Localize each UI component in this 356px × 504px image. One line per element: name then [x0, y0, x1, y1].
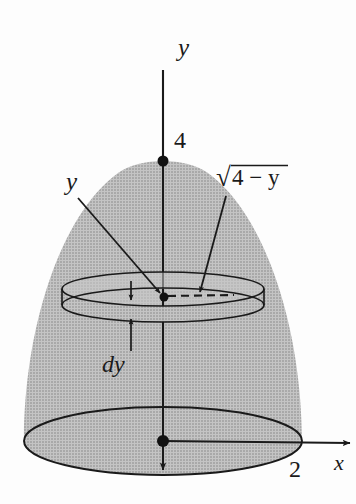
sqrt-radical-icon: √	[216, 162, 231, 192]
height-variable-label: y	[63, 168, 78, 195]
y-axis-label: y	[175, 34, 190, 61]
vertex-value-label: 4	[174, 127, 186, 153]
origin-point	[157, 435, 169, 447]
disk-center-point	[160, 293, 169, 302]
base-radius-value-label: 2	[289, 456, 301, 482]
figure-container: y x 4 2 y √ 4 − y dy	[0, 0, 356, 504]
vertex-point	[158, 156, 169, 167]
solid-of-revolution-diagram: y x 4 2 y √ 4 − y dy	[0, 0, 356, 504]
disk-radius-label: √ 4 − y	[216, 162, 288, 192]
radius-expression-label: 4 − y	[232, 165, 280, 190]
x-axis-label: x	[333, 450, 344, 475]
thickness-label: dy	[102, 351, 125, 377]
